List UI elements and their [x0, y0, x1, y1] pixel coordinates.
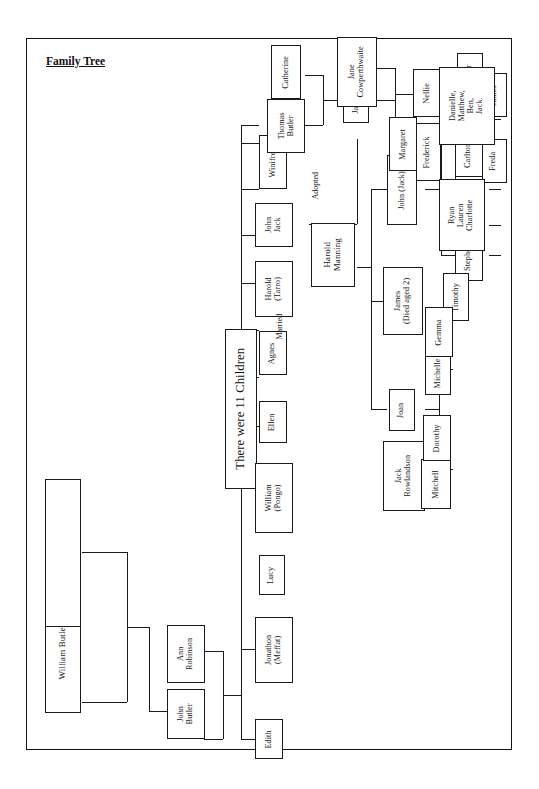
person-node-freda[interactable]: Freda: [481, 139, 507, 183]
person-node-nellie[interactable]: Nellie: [413, 69, 441, 117]
person-node-ellen[interactable]: Ellen: [259, 401, 287, 443]
person-node-elizabeth-benson[interactable]: [45, 479, 81, 627]
page-title: Family Tree: [46, 55, 105, 67]
page-canvas: Family Tree: [0, 0, 539, 789]
eleven-children-box[interactable]: There were 11 Children: [225, 329, 257, 489]
annotation-adopted: Adopted: [295, 157, 335, 197]
annotation-married: Married: [259, 297, 299, 337]
person-node-tony[interactable]: Michelle: [425, 351, 451, 395]
person-node-frederick[interactable]: Frederick: [413, 123, 441, 181]
person-node-ann-robinson[interactable]: Ann Robinson: [167, 625, 205, 683]
person-node-james-died[interactable]: James (Died aged 2): [383, 267, 423, 335]
person-node-jack-rowlandson[interactable]: Jack Rowlandson: [383, 441, 425, 511]
person-node-jane-cowperthwaite[interactable]: Jane Cowperthwaite: [337, 37, 377, 107]
person-node-dorothy[interactable]: Dorothy: [423, 415, 451, 461]
person-node-thomas-butler[interactable]: Thomas Butler: [267, 99, 305, 153]
person-node-danielle-group[interactable]: Danielle, Matthew, Ben, Jack.: [439, 67, 495, 145]
person-node-catherine[interactable]: Catherine: [271, 45, 301, 99]
person-node-jonathon[interactable]: Jonathon (Meffat): [255, 617, 293, 683]
person-node-john-jack[interactable]: John Jack: [255, 203, 293, 247]
person-node-lucy[interactable]: Lucy: [259, 555, 285, 595]
diagram-sheet: Family Tree: [26, 38, 512, 750]
person-node-ryan-group[interactable]: Ryan Lauren Charlotte: [439, 179, 485, 251]
person-node-william-pongo[interactable]: William (Pongo): [255, 463, 293, 533]
person-node-edith[interactable]: Edith: [255, 719, 283, 759]
person-node-john-butler[interactable]: John Butler: [167, 689, 205, 739]
person-node-margaret[interactable]: Margaret: [389, 117, 417, 171]
person-node-michelle[interactable]: Gemma: [425, 307, 453, 357]
person-node-joan[interactable]: Joan: [389, 389, 415, 431]
person-node-harold-manning[interactable]: Harold Manning: [311, 223, 355, 287]
person-node-mitchell[interactable]: Mitchell: [421, 459, 451, 509]
